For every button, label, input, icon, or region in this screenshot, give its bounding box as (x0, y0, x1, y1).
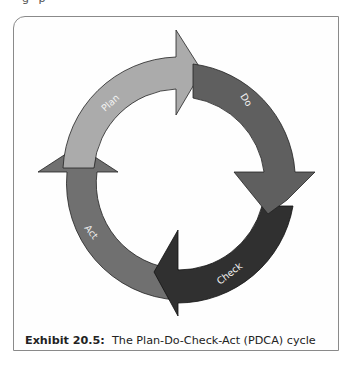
caption-text: The Plan-Do-Check-Act (PDCA) cycle (112, 334, 316, 347)
do-arrow: Do (193, 64, 315, 214)
pdca-cycle-diagram: Act Plan Check Do (0, 0, 353, 371)
check-arrow: Check (154, 206, 293, 316)
caption-number: Exhibit 20.5: (25, 334, 105, 347)
plan-arrow: Plan (63, 30, 202, 168)
exhibit-caption: Exhibit 20.5: The Plan-Do-Check-Act (PDC… (25, 334, 316, 347)
